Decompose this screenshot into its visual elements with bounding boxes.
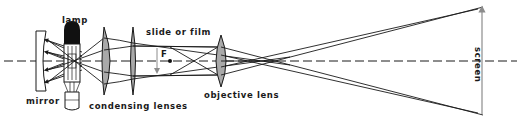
mirror-label: mirror [26,97,60,106]
condensing-lens-2-icon [131,27,136,95]
focal-point-label: F [161,50,167,59]
focal-point-icon [168,59,172,63]
projector-diagram: lamp mirror condensing lenses slide or f… [0,0,519,123]
lamp-icon [64,21,80,110]
objective-lens-label: objective lens [204,91,279,100]
screen-label: screen [474,47,483,82]
slide-or-film-label: slide or film [146,28,211,37]
condensing-lens-1-icon [102,27,110,95]
lamp-label: lamp [62,16,88,25]
condensing-lenses-label: condensing lenses [89,102,188,111]
